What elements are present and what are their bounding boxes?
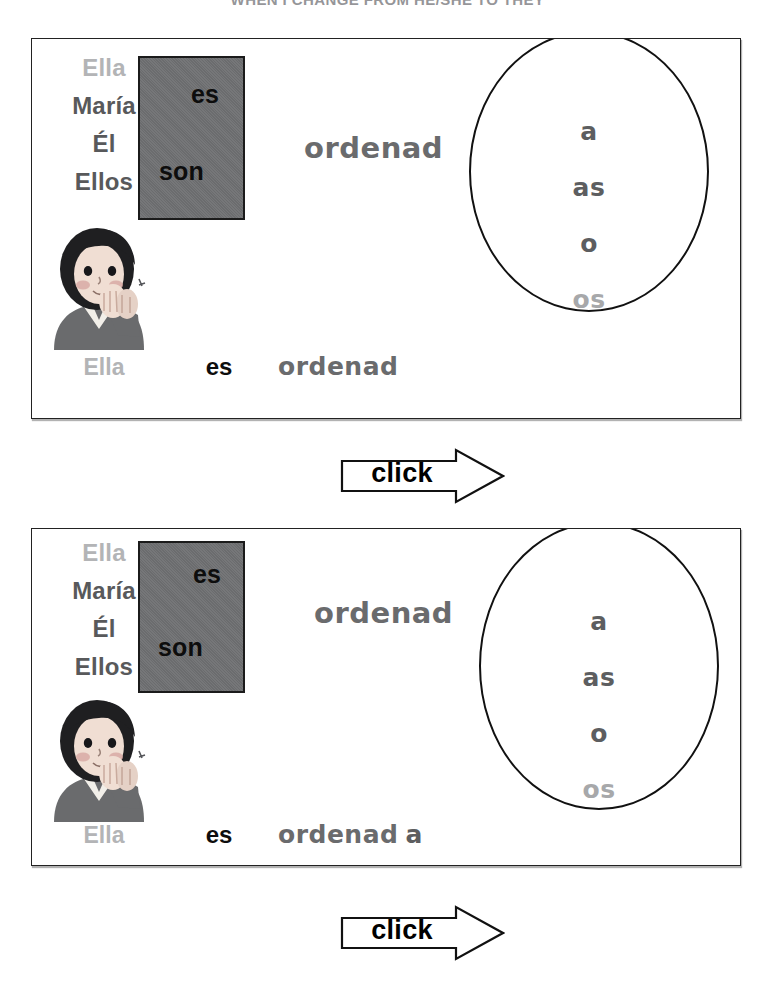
ending-o-2[interactable]: o: [481, 719, 717, 748]
ending-a-2[interactable]: a: [481, 607, 717, 636]
verb-form-son-2[interactable]: son: [158, 633, 203, 662]
answer-ending-2: a: [405, 820, 422, 849]
answer-stem-1: ordenad: [278, 352, 398, 381]
woman-svg-1: [44, 225, 149, 350]
ending-as-1[interactable]: as: [471, 173, 707, 202]
answer-verb-2: es: [160, 821, 278, 849]
verb-box-2[interactable]: es son: [138, 541, 245, 693]
verb-form-es-2[interactable]: es: [193, 560, 221, 589]
endings-list-1: a as o os: [471, 117, 707, 341]
ending-os-1[interactable]: os: [471, 285, 707, 314]
verb-form-es-1[interactable]: es: [191, 80, 219, 109]
click-label-2[interactable]: click: [354, 917, 450, 944]
click-label-1[interactable]: click: [354, 460, 450, 487]
page-title: WHEN I CHANGE FROM HE/SHE TO THEY: [0, 0, 775, 8]
woman-illustration-1: [44, 225, 149, 350]
panel-2-clip: Ella María Él Ellos es son ordenad a as …: [32, 529, 740, 865]
adjective-stem-1[interactable]: ordenad: [304, 131, 443, 165]
exercise-panel-1: Ella María Él Ellos es son ordenad a as …: [31, 38, 741, 419]
verb-form-son-1[interactable]: son: [159, 157, 204, 186]
slide-root: WHEN I CHANGE FROM HE/SHE TO THEY Ella M…: [0, 0, 775, 997]
ending-os-2[interactable]: os: [481, 775, 717, 804]
woman-illustration-2: [44, 697, 149, 822]
answer-row-1: Ella es ordenad: [48, 352, 405, 381]
ending-a-1[interactable]: a: [471, 117, 707, 146]
ending-o-1[interactable]: o: [471, 229, 707, 258]
click-button-2[interactable]: click: [340, 905, 505, 961]
answer-verb-1: es: [160, 353, 278, 381]
verb-box-1[interactable]: es son: [138, 56, 245, 220]
endings-ellipse-2: a as o os: [479, 529, 719, 810]
panel-1-clip: Ella María Él Ellos es son ordenad a as …: [32, 39, 740, 418]
click-button-1[interactable]: click: [340, 448, 505, 504]
answer-row-2: Ella es ordenad a: [48, 820, 423, 849]
woman-svg-2: [44, 697, 149, 822]
answer-stem-2: ordenad: [278, 820, 398, 849]
adjective-stem-2[interactable]: ordenad: [314, 596, 453, 630]
ending-as-2[interactable]: as: [481, 663, 717, 692]
exercise-panel-2: Ella María Él Ellos es son ordenad a as …: [31, 528, 741, 866]
answer-pronoun-1: Ella: [48, 354, 160, 381]
endings-list-2: a as o os: [481, 607, 717, 831]
answer-pronoun-2: Ella: [48, 822, 160, 849]
endings-ellipse-1: a as o os: [469, 39, 709, 312]
